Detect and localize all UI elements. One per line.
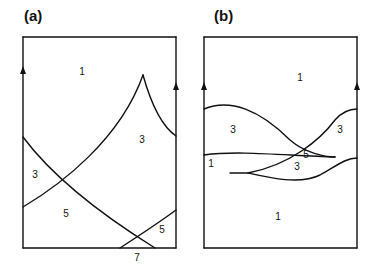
arrow-up-icon	[354, 82, 360, 90]
region-label: 7	[134, 252, 140, 263]
arrow-up-icon	[201, 82, 207, 90]
region-label: 3	[337, 124, 343, 135]
region-label: 5	[63, 208, 69, 219]
arrow-up-icon	[20, 66, 26, 74]
region-label: 1	[297, 72, 303, 83]
panel-b-curves	[204, 105, 357, 180]
arrow-up-icon	[173, 82, 179, 90]
region-label: 3	[32, 169, 38, 180]
region-label: 3	[230, 124, 236, 135]
diagram-canvas	[0, 0, 372, 269]
panel-a-frame	[23, 37, 176, 248]
region-label: 5	[159, 224, 165, 235]
region-label: 1	[208, 158, 214, 169]
region-label: 3	[139, 134, 145, 145]
region-label: 5	[303, 149, 309, 160]
region-label: 3	[294, 161, 300, 172]
region-label: 1	[79, 66, 85, 77]
panel-a-curves	[23, 75, 176, 248]
region-label: 1	[275, 211, 281, 222]
